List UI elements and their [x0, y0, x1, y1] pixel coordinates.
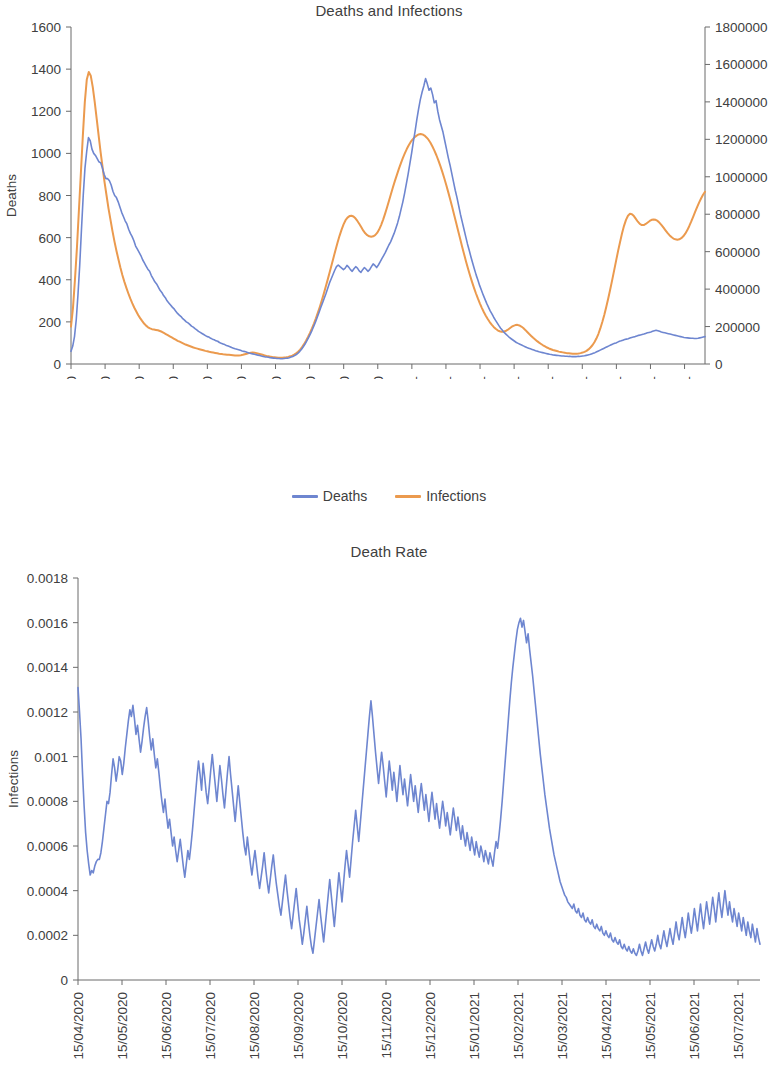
chart2-ytick-label: 0.0004 — [27, 884, 69, 899]
chart2-xtick-label: 15/04/2020 — [71, 992, 86, 1060]
chart1-xtick-label: 18/09/2020 — [269, 376, 284, 379]
chart2-ytick-label: 0.0002 — [27, 928, 68, 943]
chart2-xtick-label: 15/11/2020 — [379, 992, 394, 1059]
chart1-ytick-label: 600 — [38, 231, 61, 246]
chart2-xtick-label: 15/12/2020 — [423, 992, 438, 1060]
chart2-xtick-label: 15/05/2021 — [643, 992, 658, 1060]
legend-swatch-infections — [395, 495, 421, 498]
chart1-ytick-label: 200 — [38, 315, 61, 330]
chart2-ytick-label: 0.0016 — [27, 616, 68, 631]
chart1-xtick-label: 18/06/2020 — [166, 376, 181, 379]
legend-swatch-deaths — [292, 495, 318, 498]
chart1-xtick-label: 18/05/2020 — [132, 376, 147, 379]
chart1-xtick-label: 18/05/2021 — [541, 376, 556, 379]
chart1-y2tick-label: 600000 — [715, 245, 760, 260]
chart1-y2tick-label: 0 — [715, 357, 723, 372]
deaths-and-infections-chart: Deaths and Infections 020040060080010001… — [0, 0, 778, 530]
chart1-plot-area: 0200400600800100012001400160002000004000… — [0, 19, 778, 379]
chart1-xtick-label: 18/01/2021 — [405, 376, 420, 379]
chart2-xtick-label: 15/06/2020 — [159, 992, 174, 1060]
chart1-ytick-label: 1600 — [31, 20, 61, 35]
chart2-ytick-label: 0.0012 — [27, 705, 68, 720]
chart1-title: Deaths and Infections — [0, 2, 778, 19]
chart1-svg: 0200400600800100012001400160002000004000… — [0, 19, 778, 379]
chart1-xtick-label: 18/03/2020 — [64, 376, 79, 379]
chart2-xtick-label: 15/03/2021 — [555, 992, 570, 1060]
chart1-xtick-label: 18/11/2020 — [337, 376, 352, 379]
chart1-ylabel: Deaths — [4, 174, 19, 217]
legend-item-infections: Infections — [395, 488, 486, 504]
chart1-xtick-label: 18/03/2021 — [473, 376, 488, 379]
chart1-xtick-label: 18/10/2020 — [303, 376, 318, 379]
chart2-series-death-rate — [78, 618, 760, 955]
chart2-xtick-label: 15/08/2020 — [247, 992, 262, 1060]
chart2-svg: 00.00020.00040.00060.00080.0010.00120.00… — [0, 560, 778, 1060]
chart1-xtick-label: 18/06/2021 — [575, 376, 590, 379]
chart1-ytick-label: 0 — [53, 357, 61, 372]
chart1-ytick-label: 1200 — [31, 104, 61, 119]
chart1-xtick-label: 18/07/2020 — [200, 376, 215, 379]
chart2-ytick-label: 0.0018 — [27, 571, 68, 586]
chart2-ytick-label: 0.001 — [34, 750, 68, 765]
chart1-xtick-label: 18/12/2020 — [371, 376, 386, 379]
chart2-title: Death Rate — [0, 543, 778, 560]
chart1-xtick-label: 18/08/2021 — [643, 376, 658, 379]
chart1-xtick-label: 18/04/2020 — [98, 376, 113, 379]
chart1-xtick-label: 18/07/2021 — [609, 376, 624, 379]
chart2-xtick-label: 15/06/2021 — [687, 992, 702, 1060]
legend-label-deaths: Deaths — [323, 488, 367, 504]
chart2-plot-area: 00.00020.00040.00060.00080.0010.00120.00… — [0, 560, 778, 960]
chart1-ytick-label: 1400 — [31, 62, 61, 77]
chart1-xtick-label: 18/09/2021 — [678, 376, 693, 379]
chart2-xtick-label: 15/04/2021 — [599, 992, 614, 1060]
death-rate-chart: Death Rate 00.00020.00040.00060.00080.00… — [0, 535, 778, 1065]
chart2-xtick-label: 15/10/2020 — [335, 992, 350, 1060]
chart2-xtick-label: 15/09/2020 — [291, 992, 306, 1060]
chart2-xtick-label: 15/01/2021 — [467, 992, 482, 1060]
chart2-xtick-label: 15/02/2021 — [511, 992, 526, 1060]
chart1-ytick-label: 400 — [38, 273, 61, 288]
chart2-xtick-label: 15/05/2020 — [115, 992, 130, 1060]
legend-label-infections: Infections — [426, 488, 486, 504]
chart1-y2tick-label: 1800000 — [715, 20, 768, 35]
chart2-ytick-label: 0.0014 — [27, 660, 69, 675]
chart1-xtick-label: 18/04/2021 — [507, 376, 522, 379]
chart1-y2tick-label: 200000 — [715, 320, 760, 335]
chart2-ylabel: Infections — [6, 750, 21, 808]
chart1-ytick-label: 800 — [38, 189, 61, 204]
chart1-series-deaths — [71, 79, 705, 359]
chart2-ytick-label: 0.0006 — [27, 839, 68, 854]
chart2-xtick-label: 15/07/2020 — [203, 992, 218, 1060]
chart1-ytick-label: 1000 — [31, 146, 61, 161]
chart1-xtick-label: 18/08/2020 — [234, 376, 249, 379]
chart2-ytick-label: 0 — [60, 973, 68, 988]
chart1-y2tick-label: 1600000 — [715, 57, 768, 72]
chart2-ytick-label: 0.0008 — [27, 794, 68, 809]
chart2-xtick-label: 15/07/2021 — [731, 992, 746, 1060]
chart1-xtick-label: 18/02/2021 — [439, 376, 454, 379]
chart1-y2tick-label: 1200000 — [715, 132, 768, 147]
chart1-legend: Deaths Infections — [0, 488, 778, 504]
chart1-y2tick-label: 400000 — [715, 282, 760, 297]
chart1-y2tick-label: 1000000 — [715, 170, 768, 185]
chart1-y2tick-label: 1400000 — [715, 95, 768, 110]
chart1-y2tick-label: 800000 — [715, 207, 760, 222]
legend-item-deaths: Deaths — [292, 488, 367, 504]
chart1-series-infections — [71, 72, 705, 358]
